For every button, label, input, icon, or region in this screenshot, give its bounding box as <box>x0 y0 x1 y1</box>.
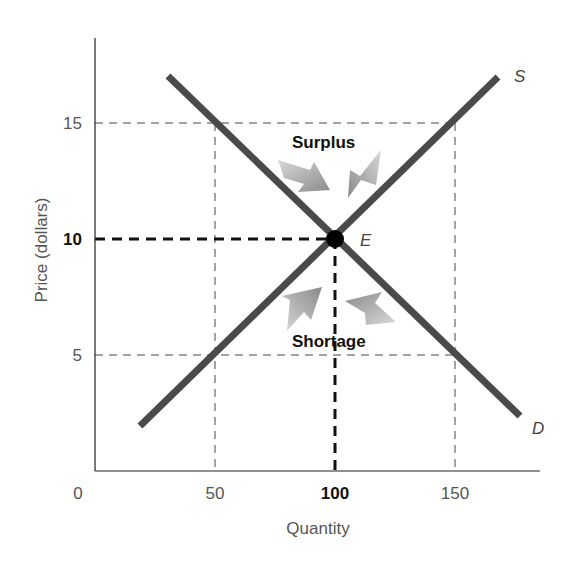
surplus-arrows <box>278 150 381 198</box>
x-tick-0: 0 <box>73 484 82 503</box>
demand-label: D <box>532 419 544 438</box>
supply-demand-chart: Surplus Shortage E S D 15 10 5 0 50 100 … <box>0 0 585 568</box>
supply-curve <box>140 77 498 426</box>
shortage-arrow-left-icon <box>282 287 322 331</box>
demand-curve <box>168 76 520 416</box>
y-axis-title: Price (dollars) <box>32 198 51 303</box>
x-tick-150: 150 <box>441 484 469 503</box>
surplus-label: Surplus <box>292 133 355 152</box>
y-tick-5: 5 <box>73 346 82 365</box>
shortage-label: Shortage <box>292 332 366 351</box>
y-tick-15: 15 <box>63 114 82 133</box>
shortage-arrow-right-icon <box>345 292 396 325</box>
x-axis-title: Quantity <box>286 519 350 538</box>
surplus-arrow-right-icon <box>348 150 381 198</box>
equilibrium-point <box>326 230 344 248</box>
x-tick-50: 50 <box>206 484 225 503</box>
supply-label: S <box>514 67 526 86</box>
y-tick-10: 10 <box>63 230 82 249</box>
x-tick-100: 100 <box>321 484 349 503</box>
shortage-arrows <box>282 287 396 331</box>
equilibrium-label: E <box>360 231 372 250</box>
